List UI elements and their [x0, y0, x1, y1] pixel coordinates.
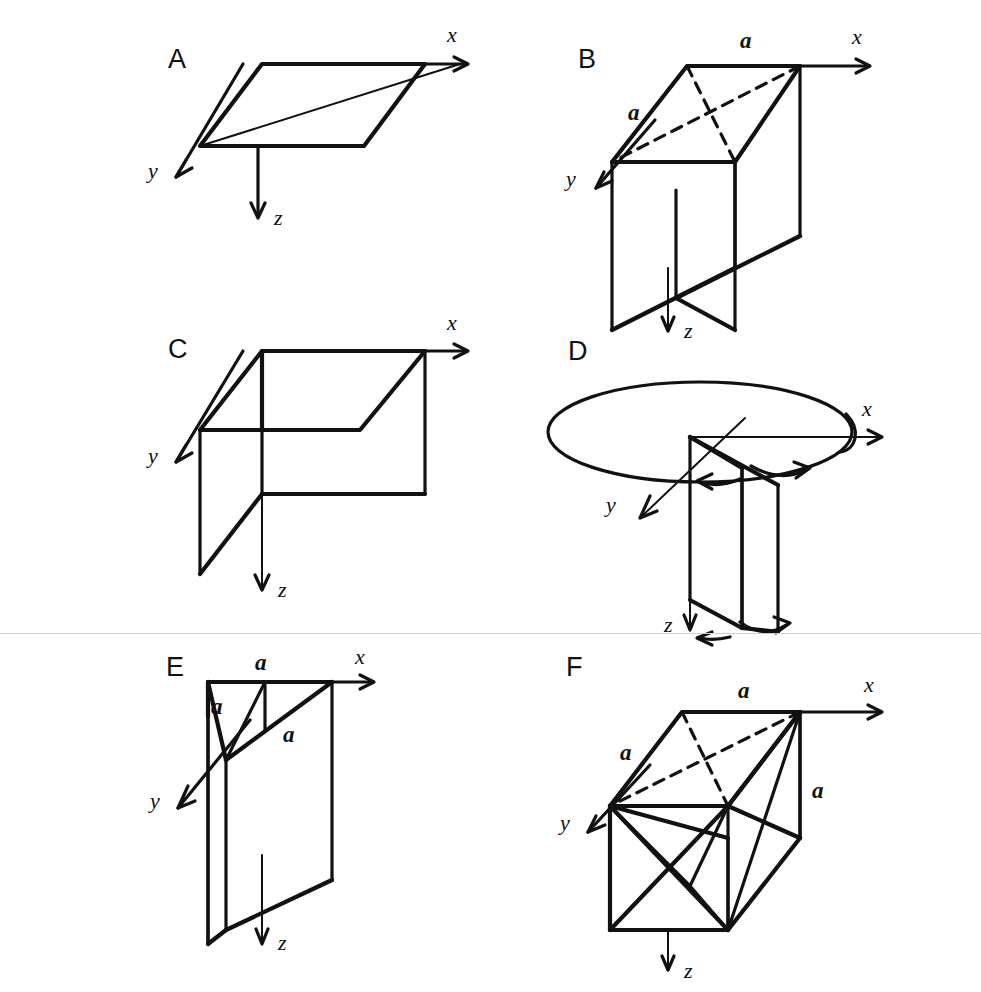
panel-f-x-label: x	[864, 672, 874, 698]
panel-f-dim-a-right: a	[812, 778, 824, 804]
panel-f: F	[0, 0, 981, 992]
panel-f-dim-a-left: a	[620, 740, 632, 766]
panel-f-z-label: z	[684, 958, 693, 984]
panel-f-dim-a-top: a	[738, 678, 750, 704]
panel-f-y-label: y	[560, 810, 570, 836]
panel-f-graphic	[0, 0, 981, 992]
figure-canvas: A x y z B	[0, 0, 981, 992]
